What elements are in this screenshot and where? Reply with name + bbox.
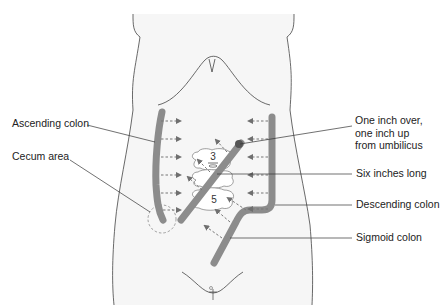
label-descending-colon: Descending colon (356, 198, 439, 211)
label-cecum-area: Cecum area (12, 150, 69, 163)
umbilicus-note-line-2: one inch up (355, 127, 423, 140)
label-sigmoid-colon: Sigmoid colon (356, 231, 422, 244)
vertebra-label-3: 3 (210, 151, 216, 162)
umbilicus-note-line-3: from umbilicus (355, 139, 423, 152)
umbilicus-note-line-1: One inch over, (355, 114, 423, 127)
label-umbilicus-note: One inch over, one inch up from umbilicu… (355, 114, 423, 152)
label-ascending-colon: Ascending colon (12, 117, 89, 130)
vertebra-label-5: 5 (211, 194, 217, 205)
label-six-inches: Six inches long (356, 167, 427, 180)
